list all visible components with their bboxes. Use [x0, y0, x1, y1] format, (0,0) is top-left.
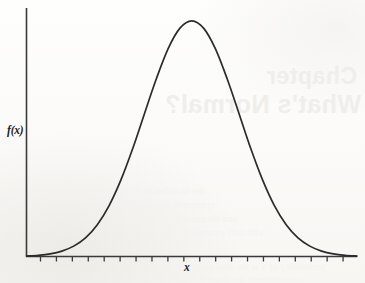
y-axis-label: f(x) [7, 124, 23, 136]
x-axis-label: x [184, 261, 190, 273]
axis-group [26, 8, 357, 262]
distribution-plot [0, 0, 365, 283]
figure-root: Chapter What's Normal? the distribution … [0, 0, 365, 283]
normal-distribution-curve [27, 21, 358, 256]
